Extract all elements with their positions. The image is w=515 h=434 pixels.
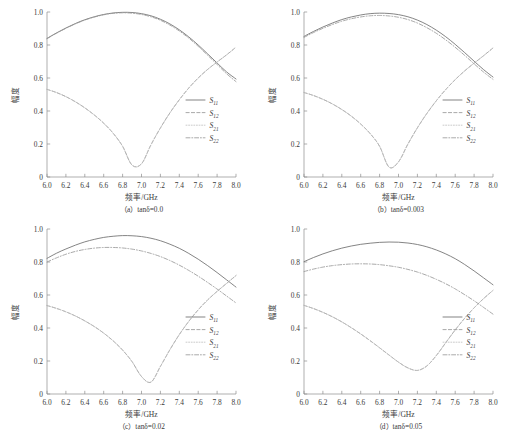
legend: S11S12S21S22 <box>443 313 476 361</box>
svg-text:0.4: 0.4 <box>291 107 301 116</box>
curve-s12 <box>304 290 493 370</box>
svg-text:7.6: 7.6 <box>451 398 461 407</box>
svg-text:1.0: 1.0 <box>291 225 301 234</box>
svg-text:0.6: 0.6 <box>34 291 44 300</box>
x-axis-ticks: 6.06.26.46.66.87.07.27.47.67.88.0 <box>299 391 498 407</box>
legend-label-s22: S22 <box>467 351 476 361</box>
svg-text:6.4: 6.4 <box>80 181 90 190</box>
svg-text:7.6: 7.6 <box>194 181 204 190</box>
y-axis-ticks: 00.20.40.60.81.0 <box>291 225 307 399</box>
curve-s12 <box>47 47 236 167</box>
svg-text:6.8: 6.8 <box>118 181 128 190</box>
svg-text:7.8: 7.8 <box>469 398 479 407</box>
svg-text:7.4: 7.4 <box>175 181 185 190</box>
panel-caption: （b）tanδ=0.003 <box>373 205 424 214</box>
svg-text:6.4: 6.4 <box>80 398 90 407</box>
legend-label-s12: S12 <box>467 326 476 336</box>
svg-text:0.4: 0.4 <box>291 324 301 333</box>
svg-text:7.0: 7.0 <box>137 181 147 190</box>
svg-text:7.8: 7.8 <box>212 181 222 190</box>
curves <box>304 242 493 370</box>
svg-text:8.0: 8.0 <box>231 398 241 407</box>
svg-text:7.8: 7.8 <box>469 181 479 190</box>
svg-text:0: 0 <box>296 390 300 399</box>
svg-text:0.2: 0.2 <box>34 357 44 366</box>
x-axis-ticks: 6.06.26.46.66.87.07.27.47.67.88.0 <box>42 174 241 190</box>
panel-caption: （a）tanδ=0.0 <box>120 205 164 214</box>
svg-text:7.0: 7.0 <box>137 398 147 407</box>
svg-text:7.4: 7.4 <box>432 398 442 407</box>
legend-label-s22: S22 <box>210 134 219 144</box>
svg-text:8.0: 8.0 <box>488 398 498 407</box>
svg-text:6.6: 6.6 <box>99 181 109 190</box>
svg-text:0: 0 <box>39 173 43 182</box>
curve-s12 <box>47 276 236 383</box>
svg-text:1.0: 1.0 <box>291 8 301 17</box>
curve-s11 <box>47 236 236 288</box>
svg-text:7.2: 7.2 <box>413 181 423 190</box>
svg-text:7.2: 7.2 <box>413 398 423 407</box>
svg-text:1.0: 1.0 <box>34 8 44 17</box>
legend-label-s11: S11 <box>210 313 219 323</box>
svg-text:6.2: 6.2 <box>318 398 328 407</box>
svg-text:0.8: 0.8 <box>291 41 301 50</box>
svg-text:0.2: 0.2 <box>291 357 301 366</box>
svg-text:0: 0 <box>296 173 300 182</box>
legend-label-s21: S21 <box>467 121 476 131</box>
svg-text:6.2: 6.2 <box>318 181 328 190</box>
axis-frame <box>47 229 236 394</box>
svg-text:0.8: 0.8 <box>291 258 301 267</box>
svg-text:7.2: 7.2 <box>156 398 166 407</box>
svg-text:7.4: 7.4 <box>175 398 185 407</box>
chart-panel-a: 6.06.26.46.66.87.07.27.47.67.88.000.20.4… <box>0 0 257 217</box>
curve-s22 <box>47 247 236 303</box>
svg-text:6.6: 6.6 <box>99 398 109 407</box>
svg-text:0.6: 0.6 <box>291 74 301 83</box>
svg-text:8.0: 8.0 <box>231 181 241 190</box>
svg-text:0: 0 <box>39 390 43 399</box>
svg-text:6.0: 6.0 <box>42 398 52 407</box>
svg-text:0.2: 0.2 <box>34 140 44 149</box>
x-axis-ticks: 6.06.26.46.66.87.07.27.47.67.88.0 <box>299 174 498 190</box>
y-axis-title: 幅度 <box>267 304 277 320</box>
curve-s21 <box>304 290 493 370</box>
svg-text:6.4: 6.4 <box>337 398 347 407</box>
svg-text:7.4: 7.4 <box>432 181 442 190</box>
curve-s21 <box>304 48 493 168</box>
curve-s21 <box>47 276 236 383</box>
svg-text:0.6: 0.6 <box>34 74 44 83</box>
x-axis-title: 频率/GHz <box>125 409 158 419</box>
svg-text:6.8: 6.8 <box>375 181 385 190</box>
y-axis-ticks: 00.20.40.60.81.0 <box>34 225 50 399</box>
legend-label-s21: S21 <box>467 338 476 348</box>
svg-text:7.6: 7.6 <box>451 181 461 190</box>
y-axis-ticks: 00.20.40.60.81.0 <box>34 8 50 182</box>
chart-panel-b: 6.06.26.46.66.87.07.27.47.67.88.000.20.4… <box>257 0 514 217</box>
svg-text:6.2: 6.2 <box>61 181 71 190</box>
chart-panel-d: 6.06.26.46.66.87.07.27.47.67.88.000.20.4… <box>257 217 514 434</box>
legend-label-s21: S21 <box>210 338 219 348</box>
figure-sparameter-grid: 6.06.26.46.66.87.07.27.47.67.88.000.20.4… <box>0 0 515 434</box>
svg-text:6.2: 6.2 <box>61 398 71 407</box>
y-axis-title: 幅度 <box>10 87 20 103</box>
svg-text:7.8: 7.8 <box>212 398 222 407</box>
curves <box>47 236 236 383</box>
legend-label-s11: S11 <box>210 96 219 106</box>
svg-text:6.4: 6.4 <box>337 181 347 190</box>
legend-label-s12: S12 <box>210 109 219 119</box>
svg-text:7.6: 7.6 <box>194 398 204 407</box>
svg-text:7.0: 7.0 <box>394 398 404 407</box>
curve-s11 <box>304 13 493 77</box>
svg-text:6.0: 6.0 <box>42 181 52 190</box>
legend-label-s12: S12 <box>210 326 219 336</box>
x-axis-ticks: 6.06.26.46.66.87.07.27.47.67.88.0 <box>42 391 241 407</box>
legend: S11S12S21S22 <box>186 96 219 144</box>
svg-text:0.8: 0.8 <box>34 258 44 267</box>
svg-text:6.6: 6.6 <box>356 181 366 190</box>
svg-text:0.4: 0.4 <box>34 107 44 116</box>
svg-text:6.0: 6.0 <box>299 181 309 190</box>
legend-label-s12: S12 <box>467 109 476 119</box>
svg-text:8.0: 8.0 <box>488 181 498 190</box>
legend-label-s11: S11 <box>467 313 476 323</box>
x-axis-title: 频率/GHz <box>382 409 415 419</box>
